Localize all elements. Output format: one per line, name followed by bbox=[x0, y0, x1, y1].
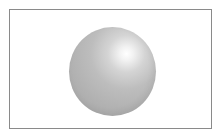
figure-frame bbox=[9, 9, 212, 129]
shaded-sphere-image bbox=[69, 27, 156, 116]
